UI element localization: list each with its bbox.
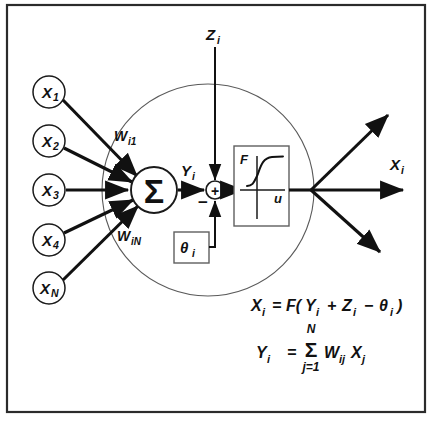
input-node-x4[interactable]: X 4: [33, 224, 65, 256]
eq2-sum-upper-limit: N: [307, 322, 316, 336]
eq1-term3-base: θ: [379, 297, 388, 314]
eq2-term1-subscript: ij: [339, 353, 346, 365]
activation-horizontal-axis-label: u: [274, 191, 282, 206]
input-node-subscript: 3: [53, 189, 59, 201]
output-label-base: X: [389, 156, 401, 173]
weight-label-subscript: i1: [128, 136, 137, 147]
input-node-subscript: 1: [53, 91, 59, 103]
eq2-sum-lower-limit: j=1: [300, 360, 319, 374]
junction-minus-sign: −: [198, 193, 208, 212]
input-node-x3[interactable]: X 3: [33, 174, 65, 206]
eq1-term2-base: Z: [341, 297, 353, 314]
weight-label-base: W: [117, 228, 132, 244]
eq1-close-paren: ): [395, 297, 402, 314]
input-node-x1[interactable]: X 1: [33, 76, 65, 108]
summation-symbol: Σ: [144, 172, 164, 210]
junction-plus-sign: +: [211, 183, 219, 199]
weight-label-subscript: iN: [131, 236, 142, 247]
activation-function-box: F u: [234, 146, 289, 226]
external-input-label-base: Z: [205, 26, 216, 43]
input-node-label: X: [41, 133, 53, 150]
input-node-subscript: 4: [52, 239, 59, 251]
eq1-operator-2: −: [364, 297, 373, 314]
diagram-canvas: X 1 X 2 X 3 X 4 X N W: [0, 0, 432, 422]
eq2-equals: =: [287, 344, 296, 361]
input-node-label: X: [41, 182, 53, 199]
input-node-xn[interactable]: X N: [33, 272, 65, 304]
neuron-diagram-figure: X 1 X 2 X 3 X 4 X N W: [0, 0, 432, 422]
input-node-subscript: N: [51, 287, 59, 299]
eq1-function-open: F(: [286, 297, 303, 314]
eq2-sigma-symbol: Σ: [305, 338, 318, 361]
input-node-label: X: [39, 280, 51, 297]
weight-label-base: W: [114, 128, 129, 144]
input-node-subscript: 2: [52, 140, 59, 152]
eq1-operator-1: +: [327, 297, 336, 314]
input-node-label: X: [41, 232, 53, 249]
threshold-label-base: θ: [180, 239, 189, 256]
eq1-equals: =: [272, 297, 281, 314]
input-node-x2[interactable]: X 2: [33, 125, 65, 157]
input-node-label: X: [41, 84, 53, 101]
activation-vertical-axis-label: F: [240, 152, 249, 167]
